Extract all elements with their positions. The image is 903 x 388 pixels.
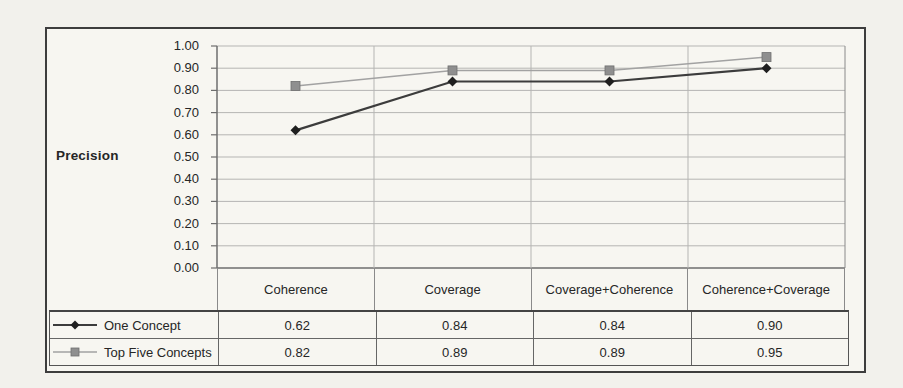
legend-series-name: One Concept [104,318,181,333]
legend-series-name: Top Five Concepts [104,345,212,360]
legend-item: One Concept [50,312,218,338]
value-cell: 0.95 [691,339,849,365]
category-label: Coherence [217,268,374,310]
data-point-square [762,53,771,62]
value-cell: 0.84 [533,312,691,338]
y-tick-label: 0.90 [139,60,199,76]
table-row: One Concept0.620.840.840.90 [50,312,848,338]
legend-data-table: One Concept0.620.840.840.90Top Five Conc… [49,310,849,366]
y-tick-label: 0.50 [139,149,199,165]
table-row: Top Five Concepts0.820.890.890.95 [50,338,848,365]
value-cell: 0.82 [218,339,376,365]
data-point-square [605,66,614,75]
value-cell: 0.90 [691,312,849,338]
category-label: Coverage+Coherence [531,268,688,310]
y-tick-label: 0.30 [139,193,199,209]
value-cell: 0.89 [376,339,534,365]
y-tick-label: 0.40 [139,171,199,187]
y-tick-label: 1.00 [139,38,199,54]
legend-square-marker-icon [53,346,97,358]
category-label: Coherence+Coverage [687,268,844,310]
y-tick-label: 0.60 [139,127,199,143]
chart-frame: Precision 1.000.900.800.700.600.500.400.… [45,27,866,373]
data-point-square [448,66,457,75]
legend-diamond-marker-icon [53,319,97,331]
scanned-figure: Precision 1.000.900.800.700.600.500.400.… [0,0,903,388]
category-label: Coverage [374,268,531,310]
data-point-diamond [291,125,301,135]
x-axis-category-row: CoherenceCoverageCoverage+CoherenceCoher… [217,268,845,310]
value-cell: 0.84 [376,312,534,338]
data-point-square [291,81,300,90]
y-tick-label: 0.10 [139,238,199,254]
y-tick-label: 0.70 [139,105,199,121]
value-cell: 0.89 [533,339,691,365]
y-tick-label: 0.80 [139,82,199,98]
y-tick-label: 0.20 [139,216,199,232]
data-point-diamond [605,77,615,87]
value-cell: 0.62 [218,312,376,338]
plot-area [217,46,845,268]
data-point-diamond [762,63,772,73]
data-point-diamond [448,77,458,87]
legend-item: Top Five Concepts [50,339,218,365]
y-tick-label: 0.00 [139,260,199,276]
